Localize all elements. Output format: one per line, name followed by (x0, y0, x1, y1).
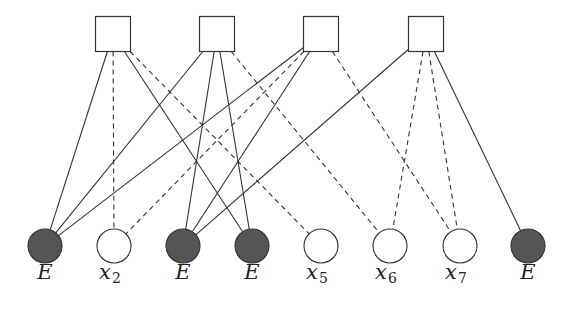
edge-c4-v6 (393, 52, 423, 230)
variable-node-7 (443, 229, 477, 263)
node-label-2: x2 (99, 260, 121, 286)
check-node-2 (200, 17, 235, 52)
erased-variable-node-8 (511, 229, 545, 263)
node-label-7: x7 (445, 260, 467, 286)
edge-c1-v5 (130, 52, 309, 234)
variable-nodes-layer (28, 229, 545, 263)
variable-node-5 (304, 229, 338, 263)
variable-node-2 (97, 229, 131, 263)
node-label-6: x6 (375, 260, 397, 286)
node-label-1: E (36, 260, 52, 284)
check-node-4 (409, 17, 444, 52)
check-nodes-layer (96, 17, 444, 52)
edge-c4-v3 (196, 49, 409, 235)
node-label-8: E (519, 260, 535, 284)
edge-c2-v6 (231, 52, 379, 233)
node-label-3: E (174, 260, 190, 284)
check-node-1 (96, 17, 131, 52)
node-label-5: x5 (306, 260, 328, 286)
edge-c3-v1 (58, 47, 303, 235)
erased-variable-node-3 (166, 229, 200, 263)
edge-c1-v2 (113, 52, 114, 230)
node-label-4: E (243, 260, 259, 284)
edge-c1-v1 (50, 52, 107, 230)
edge-c4-v8 (434, 52, 520, 231)
check-node-3 (304, 17, 339, 52)
factor-graph: Ex2EEx5x6x7E (0, 0, 577, 310)
variable-node-6 (373, 229, 407, 263)
labels-layer: Ex2EEx5x6x7E (36, 260, 535, 286)
edge-c2-v4 (220, 52, 249, 230)
edge-c1-v4 (124, 52, 242, 232)
edge-c4-v7 (429, 52, 458, 230)
erased-variable-node-1 (28, 229, 62, 263)
edges-layer (50, 47, 520, 235)
erased-variable-node-4 (235, 229, 269, 263)
edge-c2-v3 (186, 52, 215, 230)
edge-c3-v2 (126, 52, 304, 234)
